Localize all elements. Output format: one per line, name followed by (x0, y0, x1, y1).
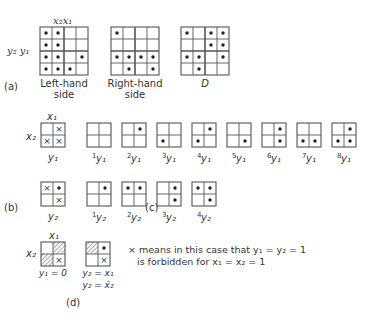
cross-icon: × (55, 124, 63, 134)
dot-icon (313, 139, 316, 142)
cross-icon: × (100, 255, 108, 265)
left-hand-side-caption: Left-hand (40, 78, 88, 89)
c-y1-5-grid: 5y₁ (227, 123, 251, 164)
left-hand-side-grid: Left-handside (40, 27, 88, 100)
grid-caption: y₁ = 0 (38, 268, 67, 278)
part-c-label: (c) (145, 202, 158, 213)
grid-caption: y₁ (305, 153, 316, 164)
cross-icon: × (55, 136, 63, 146)
dot-icon (151, 55, 154, 58)
dot-icon (139, 55, 142, 58)
dot-icon (221, 55, 224, 58)
dot-icon (348, 139, 351, 142)
dot-icon (56, 31, 59, 34)
dot-icon (197, 55, 200, 58)
c-y2-3-grid: 3y₂ (157, 182, 181, 223)
grid-caption: y₂ (47, 211, 58, 222)
dot-icon (221, 43, 224, 46)
grid-caption: y₂ (95, 212, 106, 223)
dot-icon (185, 55, 188, 58)
dot-icon (208, 127, 211, 130)
grid-caption: y₂ = x̄₂ (81, 280, 114, 290)
grid-caption: y₁ (235, 153, 246, 164)
dot-icon (208, 186, 211, 189)
dot-icon (185, 31, 188, 34)
grid-caption: y₂ = x₁ (81, 268, 114, 278)
part-a-axis-left: y₂ y₁ (6, 45, 30, 56)
grid-caption: y₁ (165, 153, 176, 164)
c-y1-6-grid: 6y₁ (262, 123, 286, 164)
dot-icon (348, 127, 351, 130)
c-y1-4-grid: 4y₁ (192, 123, 216, 164)
b-y1-grid: ×××y₁x₁x₂ (25, 111, 65, 163)
dot-icon (208, 198, 211, 201)
dot-icon (196, 186, 199, 189)
dot-icon (197, 67, 200, 70)
part-a-label: (a) (4, 81, 18, 92)
dot-icon (138, 127, 141, 130)
dot-icon (161, 139, 164, 142)
dot-icon (103, 186, 106, 189)
top-axis-label: x₁ (48, 230, 59, 241)
dot-icon (127, 67, 130, 70)
note-line-2: is forbidden for x₁ = x₂ = 1 (137, 256, 265, 267)
dot-icon (151, 67, 154, 70)
right-hand-side-grid: Right-handside (107, 27, 162, 100)
dot-icon (115, 55, 118, 58)
dot-icon (80, 55, 83, 58)
hatched-cell (86, 242, 98, 254)
c-y1-1-grid: 1y₁ (87, 123, 111, 164)
part-b-label: (b) (4, 202, 18, 213)
c-y1-3-grid: 3y₁ (157, 123, 181, 164)
dot-icon (173, 198, 176, 201)
karnaugh-map-figure: (a) x₂x₁ y₂ y₁ (b) (c) (d) × means in th… (0, 0, 373, 318)
dot-icon (115, 31, 118, 34)
cross-icon: × (55, 195, 63, 205)
grid-caption: y₁ (130, 153, 141, 164)
dot-icon (68, 67, 71, 70)
left-hand-side-caption: side (54, 89, 75, 100)
c-y1-2-grid: 2y₁ (122, 123, 146, 164)
c-y2-4-grid: 4y₂ (192, 182, 216, 223)
grid-caption: y₂ (200, 212, 211, 223)
dot-icon (278, 127, 281, 130)
part-d-label: (d) (66, 297, 80, 308)
left-axis-label: x₂ (25, 131, 36, 142)
top-axis-label: x₁ (46, 111, 57, 122)
d-map-grid: D (181, 27, 229, 89)
dot-icon (209, 31, 212, 34)
c-y1-7-grid: 7y₁ (297, 123, 321, 164)
right-hand-side-caption: Right-hand (107, 78, 162, 89)
cross-icon: × (43, 136, 51, 146)
c-y2-2-grid: 2y₂ (122, 182, 146, 223)
b-y2-grid: ××y₂ (41, 182, 65, 222)
note-line-1: × means in this case that y₁ = y₂ = 1 (128, 244, 306, 255)
dot-icon (56, 55, 59, 58)
grid-caption: y₂ (130, 212, 141, 223)
dot-icon (336, 139, 339, 142)
figure-canvas: (a) x₂x₁ y₂ y₁ (b) (c) (d) × means in th… (0, 0, 373, 318)
left-axis-label: x₂ (25, 248, 36, 259)
grid-caption: y₁ (340, 153, 351, 164)
dot-icon (56, 43, 59, 46)
d-y1-grid: ×y₁ = 0x₁x₂ (25, 230, 67, 278)
dot-icon (301, 139, 304, 142)
dot-icon (102, 246, 105, 249)
hatched-cell (41, 254, 53, 266)
dot-icon (209, 43, 212, 46)
d-map-caption: D (201, 78, 209, 89)
grid-caption: y₁ (200, 153, 211, 164)
grid-caption: y₁ (47, 152, 58, 163)
dot-icon (44, 31, 47, 34)
cross-icon: × (43, 183, 51, 193)
dot-icon (243, 139, 246, 142)
part-a-axis-top: x₂x₁ (53, 15, 72, 26)
hatched-cell (53, 242, 65, 254)
dot-icon (196, 139, 199, 142)
dot-icon (278, 139, 281, 142)
dot-icon (57, 186, 60, 189)
dot-icon (44, 43, 47, 46)
grid-caption: y₂ (165, 212, 176, 223)
dot-icon (56, 67, 59, 70)
dot-icon (44, 67, 47, 70)
